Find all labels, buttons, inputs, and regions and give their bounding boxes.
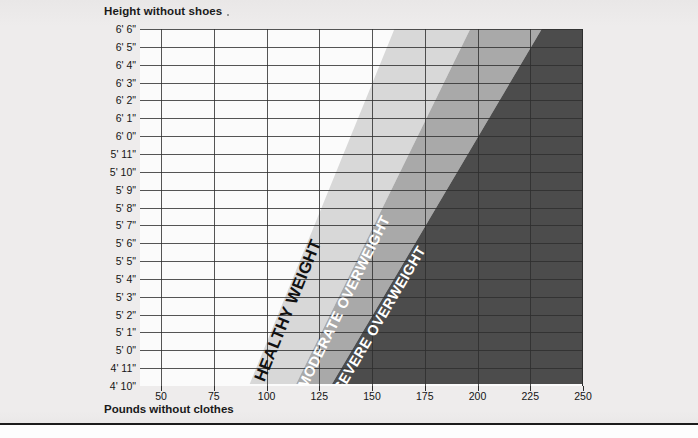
y-tick-label: 6' 1" xyxy=(116,113,136,124)
y-tick-label: 5' 2" xyxy=(116,310,136,321)
title-dot-mark xyxy=(227,14,229,16)
y-tick-label: 6' 3" xyxy=(116,78,136,89)
y-tick-label: 5' 3" xyxy=(116,292,136,303)
y-axis-title: Height without shoes xyxy=(104,5,222,17)
y-tick-label: 6' 6" xyxy=(116,24,136,35)
y-tick-label: 6' 5" xyxy=(116,42,136,53)
y-tick-label: 5' 8" xyxy=(116,203,136,214)
y-tick-label: 6' 2" xyxy=(116,95,136,106)
y-tick-label: 6' 0" xyxy=(116,131,136,142)
chart-plot-area: HEALTHY WEIGHT MODERATE OVERWEIGHT SEVER… xyxy=(140,29,583,386)
footer-strip xyxy=(0,425,698,438)
bmi-chart-page: Height without shoes HEALTHY WEIGHT MODE… xyxy=(0,0,698,438)
y-tick-label: 5' 10" xyxy=(110,167,136,178)
x-axis-title: Pounds without clothes xyxy=(104,403,234,415)
x-tick-label: 250 xyxy=(574,391,592,402)
y-tick-label: 5' 4" xyxy=(116,274,136,285)
y-tick-label: 4' 11" xyxy=(111,363,136,374)
x-tick-label: 225 xyxy=(521,391,539,402)
y-tick-label: 5' 9" xyxy=(116,185,136,196)
x-tick-label: 100 xyxy=(258,391,276,402)
x-tick-label: 150 xyxy=(363,391,381,402)
x-tick-label: 200 xyxy=(469,391,487,402)
y-tick-label: 5' 11" xyxy=(111,149,136,160)
y-tick-label: 5' 1" xyxy=(116,327,136,338)
y-tick-label: 5' 0" xyxy=(116,345,136,356)
x-tick-label: 50 xyxy=(155,391,167,402)
y-tick-label: 4' 10" xyxy=(110,381,136,392)
y-tick-label: 5' 7" xyxy=(116,220,136,231)
y-axis-tick-labels: 6' 6"6' 5"6' 4"6' 3"6' 2"6' 1"6' 0"5' 11… xyxy=(96,29,136,386)
y-tick-label: 5' 6" xyxy=(116,238,136,249)
y-tick-label: 5' 5" xyxy=(116,256,136,267)
x-tick-label: 75 xyxy=(208,391,220,402)
x-tick-label: 125 xyxy=(311,391,329,402)
x-tick-label: 175 xyxy=(416,391,434,402)
y-tick-label: 6' 4" xyxy=(116,60,136,71)
